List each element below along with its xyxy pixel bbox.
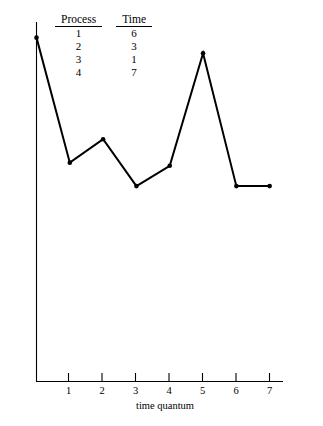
data-point	[267, 184, 272, 189]
x-tick-label-4: 4	[160, 385, 178, 396]
data-point-markers	[34, 35, 272, 188]
data-point	[68, 160, 73, 165]
data-point	[34, 35, 39, 40]
data-point	[201, 51, 206, 56]
x-tick-label-7: 7	[261, 385, 279, 396]
turnaround-time-figure: Process Time 1 6 2 3 3 1 4	[0, 0, 323, 426]
data-point	[234, 184, 239, 189]
x-tick-label-6: 6	[227, 385, 245, 396]
data-point	[167, 164, 172, 169]
x-tick-label-1: 1	[60, 385, 78, 396]
data-point	[101, 137, 106, 142]
x-tick-label-2: 2	[93, 385, 111, 396]
line-chart-plot	[0, 0, 323, 426]
x-tick-label-3: 3	[127, 385, 145, 396]
x-tick-marks	[69, 373, 270, 382]
x-axis-label: time quantum	[105, 400, 225, 411]
data-point	[134, 184, 139, 189]
x-tick-label-5: 5	[194, 385, 212, 396]
